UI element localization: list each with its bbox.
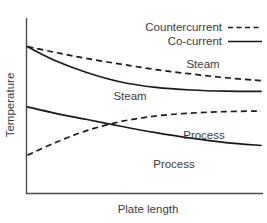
curve-label-steam-countercurrent: Steam <box>186 58 219 70</box>
legend-label-cocurrent: Co-current <box>168 35 223 47</box>
curve-label-process-cocurrent: Process <box>153 158 195 170</box>
legend-label-countercurrent: Countercurrent <box>145 21 223 33</box>
chart-background <box>0 0 267 223</box>
y-axis-title: Temperature <box>4 73 16 138</box>
curve-label-steam-cocurrent: Steam <box>113 90 146 102</box>
curve-label-process-countercurrent: Process <box>183 129 225 141</box>
chart-container: Steam Steam Process Process Countercurre… <box>0 0 267 223</box>
x-axis-title: Plate length <box>118 203 179 215</box>
temperature-vs-plate-length-chart: Steam Steam Process Process Countercurre… <box>0 0 267 223</box>
